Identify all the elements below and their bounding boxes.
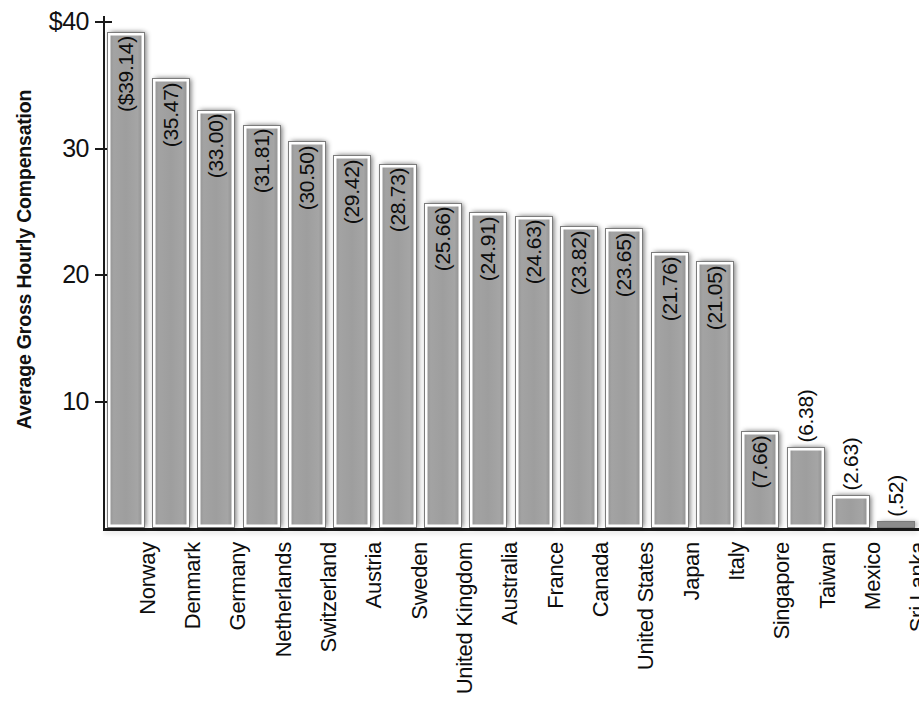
x-axis-label-switzerland: Switzerland [316, 542, 342, 652]
y-axis-tick-label: 20 [62, 260, 89, 289]
bar[interactable] [696, 261, 734, 528]
bar[interactable] [651, 252, 689, 528]
y-axis-line [103, 16, 105, 530]
x-axis-label-denmark: Denmark [180, 542, 206, 629]
x-axis-label-united-kingdom: United Kingdom [452, 542, 478, 694]
plot-area: 102030$40 ($39.14)(35.47)(33.00)(31.81)(… [103, 0, 919, 530]
x-axis-label-netherlands: Netherlands [271, 542, 297, 657]
bar-value-label: (6.38) [794, 390, 818, 443]
bar[interactable] [152, 78, 190, 528]
bar[interactable] [288, 141, 326, 528]
bar[interactable] [515, 216, 553, 528]
x-axis-label-norway: Norway [135, 542, 161, 615]
bar[interactable] [424, 203, 462, 528]
x-axis-label-sweden: Sweden [407, 542, 433, 620]
x-axis-label-sri-lanka: Sri Lanka [905, 542, 919, 632]
bar[interactable] [379, 164, 417, 528]
bar[interactable] [333, 155, 371, 528]
bar[interactable] [605, 228, 643, 528]
bar[interactable] [560, 226, 598, 528]
y-axis-title: Average Gross Hourly Compensation [13, 30, 36, 490]
x-axis-label-australia: Australia [497, 542, 523, 625]
x-axis-label-italy: Italy [724, 542, 750, 581]
x-axis-label-singapore: Singapore [769, 542, 795, 640]
bar-value-label: (.52) [884, 476, 908, 518]
x-axis-label-taiwan: Taiwan [815, 542, 841, 609]
bar[interactable] [197, 110, 235, 528]
bar[interactable] [107, 32, 145, 528]
bar-chart: Average Gross Hourly Compensation 102030… [0, 0, 919, 727]
x-axis-label-united-states: United States [633, 542, 659, 670]
x-axis-label-canada: Canada [588, 542, 614, 617]
y-axis-tick-label: 30 [62, 133, 89, 162]
bar[interactable] [787, 447, 825, 528]
bar[interactable] [469, 212, 507, 528]
y-axis-tick-mark [95, 21, 112, 23]
y-axis-tick-label: $40 [49, 6, 89, 35]
bar-value-label: (2.63) [839, 437, 863, 490]
x-axis-label-france: France [543, 542, 569, 609]
x-axis-label-austria: Austria [361, 542, 387, 608]
x-axis-line [103, 528, 919, 531]
bar[interactable] [741, 431, 779, 528]
x-axis-label-germany: Germany [225, 542, 251, 630]
bar[interactable] [832, 495, 870, 528]
x-axis-label-japan: Japan [679, 542, 705, 600]
y-axis-tick-label: 10 [62, 387, 89, 416]
bar[interactable] [877, 521, 915, 528]
x-axis-label-mexico: Mexico [860, 542, 886, 610]
bar[interactable] [243, 125, 281, 528]
